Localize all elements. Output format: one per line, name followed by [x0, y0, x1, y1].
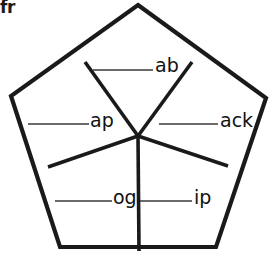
segment-label-ack: ack: [220, 109, 253, 131]
segment-label-ip: ip: [194, 186, 211, 208]
segment-label-ap: ap: [90, 109, 114, 131]
segment-label-ab: ab: [155, 54, 179, 76]
worksheet-canvas: fr ab ap ack og ip: [0, 0, 269, 259]
pentagon-word-wheel-figure: ab ap ack og ip: [0, 0, 269, 259]
segment-label-og: og: [113, 186, 137, 208]
spoke-to-edge-bottom: [138, 136, 139, 251]
